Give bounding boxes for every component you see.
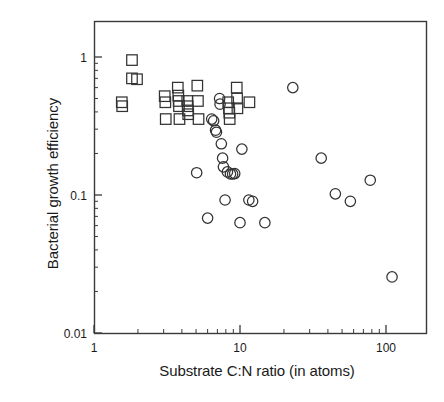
data-point-circle [260, 217, 270, 227]
data-point-circle [247, 196, 257, 206]
data-point-circle [365, 175, 375, 185]
data-point-square [117, 101, 128, 112]
data-point-square [193, 114, 204, 125]
axes-layer [94, 22, 427, 334]
data-point-circle [220, 195, 230, 205]
data-point-square [224, 114, 235, 125]
data-point-circle [191, 168, 201, 178]
x-tick-label: 1 [91, 341, 98, 355]
x-tick-label: 10 [233, 341, 247, 355]
data-point-square [244, 97, 255, 108]
y-tick-label: 1 [80, 51, 87, 65]
data-point-square [224, 107, 235, 118]
data-point-square [159, 91, 170, 102]
data-point-square [192, 80, 203, 91]
data-markers-layer [117, 55, 398, 282]
data-point-circle [202, 213, 212, 223]
data-point-circle [237, 144, 247, 154]
data-point-circle [316, 153, 326, 163]
data-point-square [173, 82, 184, 93]
data-point-square [160, 97, 171, 108]
data-point-circle [387, 272, 397, 282]
plot-frame [95, 22, 427, 334]
data-point-circle [330, 189, 340, 199]
figure-container: Bacterial growth efficiency Substrate C:… [0, 0, 444, 402]
data-point-square [160, 114, 171, 125]
data-point-square [117, 97, 128, 108]
data-point-circle [288, 82, 298, 92]
data-point-circle [345, 196, 355, 206]
y-tick-label: 0.01 [64, 327, 88, 341]
y-tick-label: 0.1 [70, 189, 87, 203]
data-point-square [231, 82, 242, 93]
data-point-circle [235, 217, 245, 227]
data-point-circle [216, 139, 226, 149]
data-point-square [127, 55, 138, 66]
scatter-plot: 1101000.010.11 [0, 0, 444, 402]
x-tick-label: 100 [376, 341, 396, 355]
data-point-square [193, 96, 204, 107]
